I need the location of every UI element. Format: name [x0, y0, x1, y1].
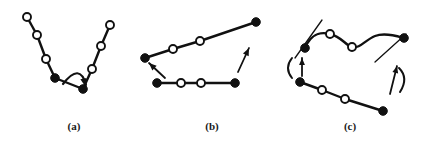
node-open	[318, 86, 326, 94]
node-open	[196, 37, 204, 45]
node-filled	[231, 79, 240, 88]
node-open	[197, 79, 205, 87]
node-filled	[153, 79, 162, 88]
node-open	[177, 79, 185, 87]
diagram-canvas: (a)(b)(c)	[0, 0, 430, 144]
node-open	[169, 45, 177, 53]
node-open	[88, 65, 96, 73]
panel-caption-a: (a)	[68, 120, 81, 133]
node-open	[341, 95, 349, 103]
node-open	[23, 13, 31, 21]
node-open	[106, 21, 114, 29]
node-filled	[400, 34, 409, 43]
node-open	[33, 31, 41, 39]
node-open	[42, 55, 50, 63]
node-filled	[51, 74, 60, 83]
node-filled	[252, 18, 261, 27]
node-open	[326, 30, 334, 38]
node-open	[97, 42, 105, 50]
node-open	[348, 43, 356, 51]
node-filled	[141, 54, 150, 63]
node-filled	[296, 78, 305, 87]
panel-caption-b: (b)	[205, 120, 219, 133]
figure-container: (a)(b)(c)	[0, 0, 430, 144]
node-filled	[379, 107, 388, 116]
node-filled	[301, 44, 310, 53]
panel-caption-c: (c)	[344, 120, 357, 133]
